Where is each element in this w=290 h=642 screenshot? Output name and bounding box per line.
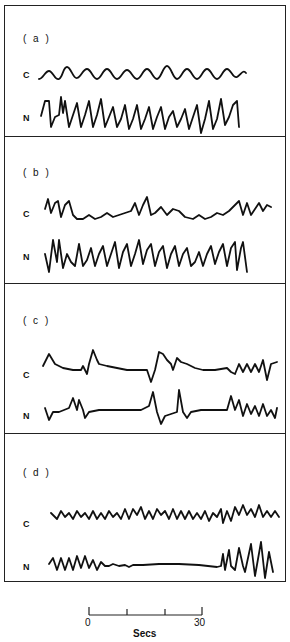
scale-bar-line [0, 0, 290, 642]
scale-start-label: 0 [85, 617, 91, 628]
time-scale-bar: 0 30 Secs [0, 0, 290, 642]
scale-end-label: 30 [194, 617, 205, 628]
scale-unit-label: Secs [133, 628, 156, 639]
